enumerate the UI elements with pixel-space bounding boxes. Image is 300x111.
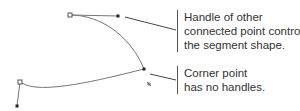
handle-point[interactable]: [117, 15, 120, 18]
corner-point[interactable]: [143, 68, 146, 71]
callout-corner: Corner point has no handles.: [177, 66, 265, 94]
open-anchor-top[interactable]: [68, 13, 72, 17]
bezier-path: [17, 15, 144, 106]
pen-cursor-icon: [147, 82, 151, 86]
callout-handle: Handle of other connected point controls…: [177, 10, 300, 52]
callout-line: Corner point: [184, 66, 265, 80]
callout-line: Handle of other: [184, 10, 300, 24]
callout-line: the segment shape.: [184, 38, 300, 52]
bottom-anchor[interactable]: [16, 105, 19, 108]
leader-line-2: [150, 74, 176, 80]
leader-line-1: [125, 17, 176, 30]
callout-line: connected point controls: [184, 24, 300, 38]
open-anchor-left[interactable]: [18, 80, 22, 84]
callout-line: has no handles.: [184, 80, 265, 94]
